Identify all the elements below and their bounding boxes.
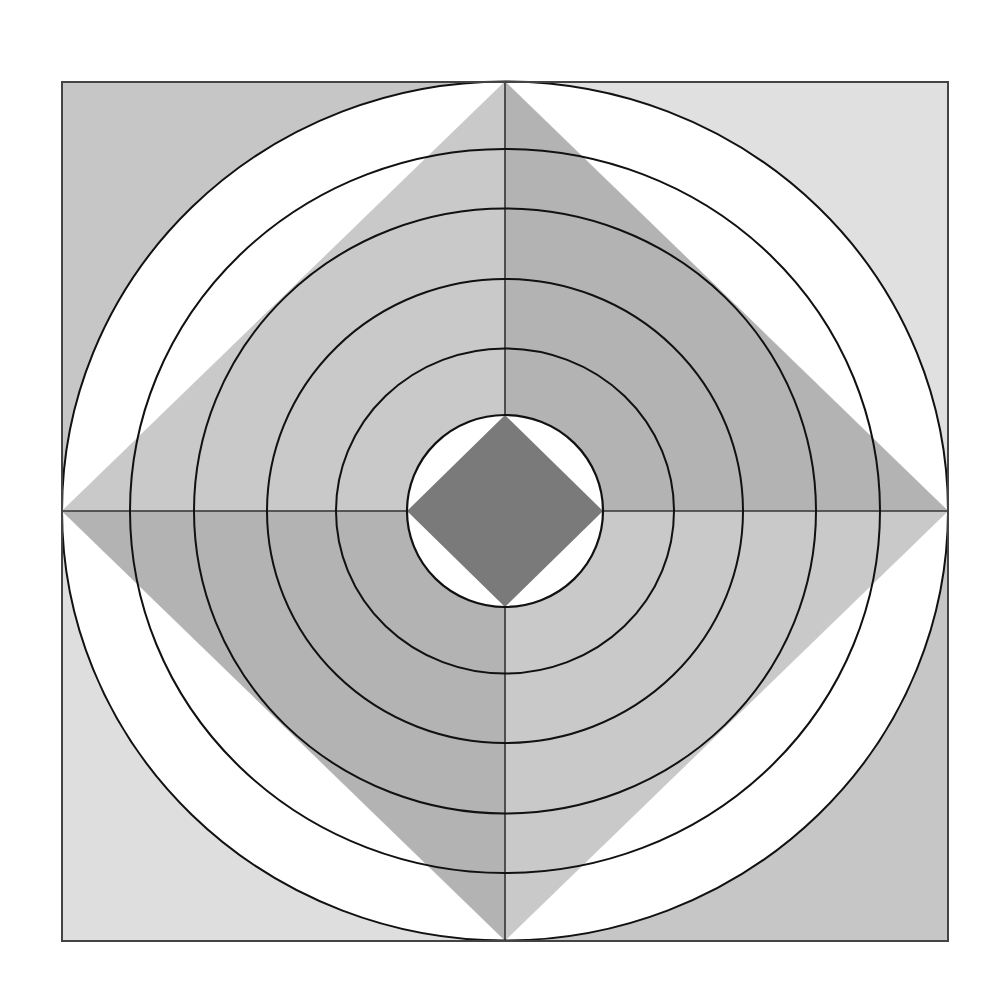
geometric-diagram bbox=[0, 0, 1005, 999]
